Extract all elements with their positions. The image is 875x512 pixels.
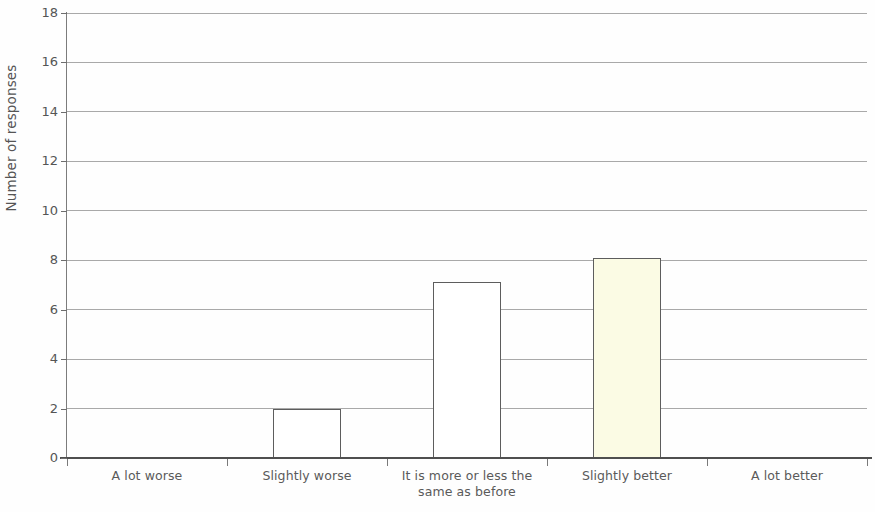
gridline — [67, 210, 867, 211]
x-axis-tick-label-line: It is more or less the — [387, 468, 547, 484]
x-axis-tick-mark — [547, 459, 548, 466]
bar — [433, 282, 501, 458]
x-axis-tick-label: A lot worse — [67, 468, 227, 484]
x-axis-tick-label-line: Slightly better — [547, 468, 707, 484]
y-axis-tick-label: 4 — [24, 352, 58, 366]
x-axis-line — [60, 457, 872, 459]
x-axis-tick-mark — [867, 459, 868, 466]
x-axis-tick-label-line: A lot better — [707, 468, 867, 484]
x-axis-tick-mark — [227, 459, 228, 466]
x-axis-tick-labels: A lot worseSlightly worseIt is more or l… — [67, 468, 867, 512]
gridline — [67, 260, 867, 261]
y-axis-tick-label: 16 — [24, 55, 58, 69]
gridline — [67, 13, 867, 14]
y-axis-tick-mark — [61, 13, 67, 14]
y-axis-tick-mark — [61, 112, 67, 113]
y-axis-tick-label: 2 — [24, 402, 58, 416]
bar-chart: Number of responses 024681012141618 A lo… — [0, 0, 875, 512]
y-axis-tick-mark — [61, 161, 67, 162]
y-axis-tick-mark — [61, 310, 67, 311]
y-axis-tick-label: 8 — [24, 253, 58, 267]
x-axis-tick-mark — [387, 459, 388, 466]
y-axis-tick-label: 14 — [24, 105, 58, 119]
y-axis-tick-mark — [61, 211, 67, 212]
x-axis-tick-label: Slightly better — [547, 468, 707, 484]
x-axis-tick-mark — [707, 459, 708, 466]
x-axis-tick-label: A lot better — [707, 468, 867, 484]
y-axis-tick-label: 18 — [24, 6, 58, 20]
x-axis-tick-label: Slightly worse — [227, 468, 387, 484]
x-axis-tick-label-line: A lot worse — [67, 468, 227, 484]
gridline — [67, 111, 867, 112]
y-axis-tick-label: 12 — [24, 154, 58, 168]
y-axis-tick-mark — [61, 359, 67, 360]
y-axis-tick-mark — [61, 260, 67, 261]
y-axis-tick-label: 6 — [24, 303, 58, 317]
x-axis-tick-mark — [67, 459, 68, 466]
plot-area — [67, 13, 867, 458]
y-axis-tick-mark — [61, 62, 67, 63]
x-axis-tick-label: It is more or less thesame as before — [387, 468, 547, 500]
x-axis-tick-label-line: same as before — [387, 484, 547, 500]
gridline — [67, 62, 867, 63]
y-axis-tick-label: 0 — [24, 451, 58, 465]
bar — [593, 258, 661, 458]
y-axis-tick-label: 10 — [24, 204, 58, 218]
bar — [273, 409, 341, 458]
y-axis-tick-labels: 024681012141618 — [0, 0, 58, 512]
x-axis-tick-label-line: Slightly worse — [227, 468, 387, 484]
y-axis-tick-mark — [61, 409, 67, 410]
gridline — [67, 161, 867, 162]
